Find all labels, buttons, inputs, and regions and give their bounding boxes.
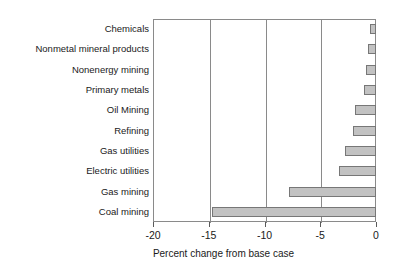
category-axis-labels: ChemicalsNonmetal mineral productsNonene… [0, 19, 149, 222]
bar [212, 207, 376, 217]
bar [364, 85, 376, 95]
bar [368, 44, 376, 54]
x-tick-mark [320, 222, 321, 227]
x-tick-mark [153, 222, 154, 227]
bar [345, 146, 376, 156]
category-label: Nonmetal mineral products [0, 43, 149, 54]
x-tick-mark [265, 222, 266, 227]
category-label: Gas mining [0, 186, 149, 197]
category-label: Chemicals [0, 23, 149, 34]
bar [370, 24, 376, 34]
x-tick-label: -20 [133, 229, 173, 241]
category-label: Nonenergy mining [0, 64, 149, 75]
bar [366, 65, 376, 75]
category-label: Electric utilities [0, 165, 149, 176]
category-label: Refining [0, 125, 149, 136]
category-label: Primary metals [0, 84, 149, 95]
x-tick-label: -15 [189, 229, 229, 241]
x-tick-label: -5 [300, 229, 340, 241]
bar [289, 187, 376, 197]
x-tick-mark [209, 222, 210, 227]
bar [339, 166, 376, 176]
x-tick-label: -10 [245, 229, 285, 241]
bar [353, 126, 376, 136]
x-axis-title: Percent change from base case [0, 248, 397, 259]
bars-layer [153, 19, 376, 222]
bar-chart-figure: ChemicalsNonmetal mineral productsNonene… [0, 0, 397, 271]
x-tick-mark [376, 222, 377, 227]
category-label: Gas utilities [0, 145, 149, 156]
x-axis-title-text: Percent change from base case [103, 248, 294, 259]
category-label: Oil Mining [0, 104, 149, 115]
category-label: Coal mining [0, 206, 149, 217]
x-tick-label: 0 [356, 229, 396, 241]
bar [355, 105, 376, 115]
